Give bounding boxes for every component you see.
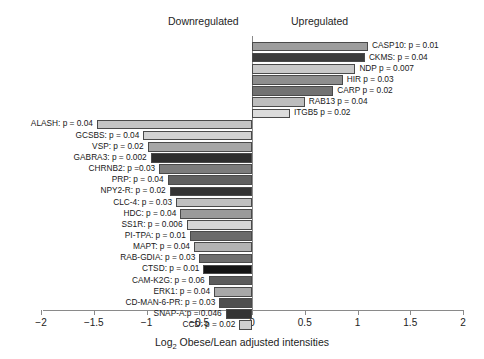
- bar-npy2-r: [170, 187, 252, 197]
- bar-row: CKMS: p = 0.04: [0, 52, 484, 63]
- bar-vsp: [148, 142, 252, 152]
- bar-row: NPY2-R: p = 0.02: [0, 186, 484, 197]
- bar-row: RAB13 p = 0.04: [0, 97, 484, 108]
- bar-row: ERK1: p = 0.04: [0, 286, 484, 297]
- bar-ctsd: [203, 265, 252, 275]
- bar-ndp: [252, 64, 355, 74]
- bar-mapt: [194, 242, 252, 252]
- bar-label-carp: CARP p = 0.02: [337, 85, 392, 96]
- x-axis-title-prefix: Log: [155, 336, 173, 348]
- bar-row: CLC-4: p = 0.03: [0, 197, 484, 208]
- bar-label-ccd: CCD: p = 0.02: [183, 319, 236, 330]
- bar-ckms: [252, 53, 365, 63]
- bar-row: CD-MAN-6-PR: p = 0.03: [0, 297, 484, 308]
- bar-label-snap-a: SNAP-A:p = 0.046: [154, 308, 222, 319]
- bar-row: CHRNB2: p =0.03: [0, 164, 484, 175]
- bar-rab-gdia: [199, 254, 252, 264]
- bar-gcsbs: [143, 131, 252, 141]
- bar-label-cam-k2g: CAM-K2G: p = 0.06: [132, 275, 205, 286]
- bar-row: VSP: p = 0.02: [0, 141, 484, 152]
- bar-row: ITGB5 p = 0.02: [0, 108, 484, 119]
- bar-row: NDP p = 0.007: [0, 63, 484, 74]
- bar-label-cd-man-6-pr: CD-MAN-6-PR: p = 0.03: [126, 297, 216, 308]
- x-axis-title: Log2 Obese/Lean adjusted intensities: [0, 336, 484, 351]
- bar-label-hdc: HDC: p = 0.04: [123, 208, 176, 219]
- x-axis-title-suffix: Obese/Lean adjusted intensities: [177, 336, 329, 348]
- bar-row: GCSBS: p = 0.04: [0, 130, 484, 141]
- bar-row: CARP p = 0.02: [0, 86, 484, 97]
- bar-label-chrnb2: CHRNB2: p =0.03: [89, 163, 156, 174]
- bar-itgb5: [252, 109, 290, 119]
- bar-row: ALASH: p = 0.04: [0, 119, 484, 130]
- bar-snap-a: [226, 309, 252, 319]
- bar-row: CAM-K2G: p = 0.06: [0, 275, 484, 286]
- bar-chrnb2: [159, 164, 252, 174]
- bar-row: RAB-GDIA: p = 0.03: [0, 253, 484, 264]
- bar-rab13: [252, 97, 305, 107]
- bar-row: GABRA3: p = 0.002: [0, 153, 484, 164]
- bar-label-mapt: MAPT: p = 0.04: [133, 241, 190, 252]
- bar-label-ndp: NDP p = 0.007: [359, 63, 414, 74]
- bar-label-vsp: VSP: p = 0.02: [92, 141, 143, 152]
- bar-hdc: [180, 209, 252, 219]
- bar-row: SS1R: p = 0.006: [0, 219, 484, 230]
- bar-label-pi-tpa: PI-TPA: p = 0.01: [125, 230, 186, 241]
- bar-label-ckms: CKMS: p = 0.04: [369, 52, 428, 63]
- bar-label-npy2-r: NPY2-R: p = 0.02: [100, 185, 165, 196]
- bar-label-casp10: CASP10: p = 0.01: [372, 40, 439, 51]
- bar-label-gcsbs: GCSBS: p = 0.04: [75, 130, 139, 141]
- bar-ss1r: [187, 220, 252, 230]
- bar-label-clc-4: CLC-4: p = 0.03: [113, 197, 172, 208]
- bar-row: CASP10: p = 0.01: [0, 41, 484, 52]
- bar-label-gabra3: GABRA3: p = 0.002: [74, 152, 147, 163]
- bar-carp: [252, 86, 333, 96]
- bar-label-hir: HIR p = 0.03: [347, 74, 394, 85]
- bar-ccd: [239, 320, 252, 330]
- bar-erk1: [214, 287, 252, 297]
- bar-row: PRP: p = 0.04: [0, 175, 484, 186]
- bar-row: CCD: p = 0.02: [0, 320, 484, 331]
- bar-row: HIR p = 0.03: [0, 74, 484, 85]
- chart-figure: Downregulated Upregulated −2−1.5−1−0.500…: [0, 0, 484, 359]
- bar-label-erk1: ERK1: p = 0.04: [154, 286, 211, 297]
- bar-label-itgb5: ITGB5 p = 0.02: [294, 107, 351, 118]
- bar-clc-4: [176, 198, 252, 208]
- bar-alash: [97, 120, 252, 130]
- bar-label-ss1r: SS1R: p = 0.006: [121, 219, 182, 230]
- bar-label-rab13: RAB13 p = 0.04: [309, 96, 368, 107]
- bar-label-alash: ALASH: p = 0.04: [31, 118, 93, 129]
- bar-gabra3: [151, 153, 252, 163]
- bar-label-rab-gdia: RAB-GDIA: p = 0.03: [120, 252, 195, 263]
- bar-label-ctsd: CTSD: p = 0.01: [142, 263, 199, 274]
- plot-area: −2−1.5−1−0.500.511.52 CASP10: p = 0.01CK…: [0, 0, 484, 359]
- bar-row: SNAP-A:p = 0.046: [0, 309, 484, 320]
- bar-cam-k2g: [209, 276, 252, 286]
- bar-row: CTSD: p = 0.01: [0, 264, 484, 275]
- bar-pi-tpa: [190, 231, 252, 241]
- bar-cd-man-6-pr: [219, 298, 252, 308]
- bar-row: HDC: p = 0.04: [0, 208, 484, 219]
- bar-row: PI-TPA: p = 0.01: [0, 231, 484, 242]
- bar-casp10: [252, 42, 368, 52]
- bar-row: MAPT: p = 0.04: [0, 242, 484, 253]
- bar-label-prp: PRP: p = 0.04: [112, 174, 164, 185]
- bar-hir: [252, 75, 343, 85]
- bar-prp: [168, 175, 252, 185]
